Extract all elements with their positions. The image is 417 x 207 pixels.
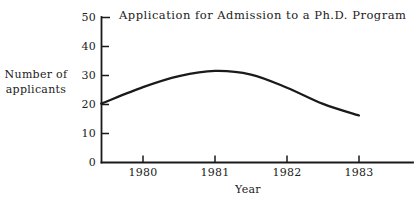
y-axis-title: Number of applicants (4, 68, 68, 97)
x-tick-label-1981: 1981 (193, 166, 237, 179)
y-axis-title-line1: Number of (4, 68, 68, 83)
y-tick-label-30: 30 (66, 69, 96, 82)
y-axis-title-line2: applicants (4, 83, 68, 98)
y-tick-label-20: 20 (66, 98, 96, 111)
y-tick-label-50: 50 (66, 11, 96, 24)
x-tick-label-1982: 1982 (265, 166, 309, 179)
x-tick-label-1980: 1980 (121, 166, 165, 179)
admissions-line-chart: Application for Admission to a Ph.D. Pro… (0, 0, 417, 207)
y-tick-label-40: 40 (66, 40, 96, 53)
x-tick-label-1983: 1983 (337, 166, 381, 179)
chart-title: Application for Admission to a Ph.D. Pro… (119, 9, 406, 22)
applicants-curve (101, 71, 359, 116)
y-tick-marks (102, 18, 111, 134)
y-tick-label-0: 0 (66, 156, 96, 169)
x-axis-title: Year (217, 183, 279, 196)
x-tick-marks (143, 156, 359, 163)
y-tick-label-10: 10 (66, 127, 96, 140)
